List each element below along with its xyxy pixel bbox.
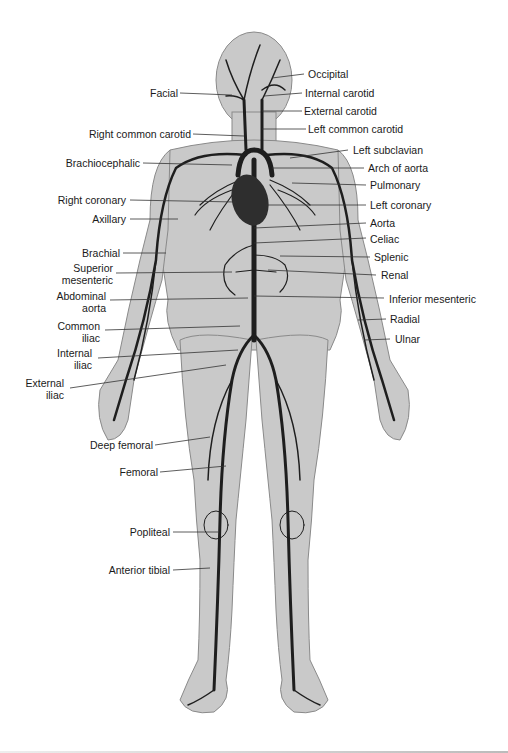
- label-brachiocephalic: Brachiocephalic: [66, 157, 140, 169]
- label-renal: Renal: [381, 269, 408, 281]
- label-ulnar: Ulnar: [395, 333, 420, 345]
- label-arch-of-aorta: Arch of aorta: [368, 162, 428, 174]
- label-celiac: Celiac: [370, 233, 399, 245]
- label-pulmonary: Pulmonary: [370, 179, 420, 191]
- label-left-common-carotid: Left common carotid: [308, 123, 403, 135]
- label-facial: Facial: [150, 87, 178, 99]
- label-internal-carotid: Internal carotid: [305, 87, 374, 99]
- label-brachial: Brachial: [82, 247, 120, 259]
- label-aorta: Aorta: [370, 217, 395, 229]
- label-external-iliac: External iliac: [16, 377, 64, 401]
- label-left-coronary: Left coronary: [370, 199, 431, 211]
- label-axillary: Axillary: [92, 213, 126, 225]
- label-left-subclavian: Left subclavian: [353, 144, 423, 156]
- label-common-iliac: Common iliac: [52, 320, 100, 344]
- circulatory-system-figure: [0, 0, 508, 753]
- label-superior-mesenteric: Superior mesenteric: [33, 262, 113, 286]
- label-splenic: Splenic: [374, 251, 408, 263]
- label-right-common-carotid: Right common carotid: [89, 128, 191, 140]
- label-internal-iliac: Internal iliac: [44, 347, 92, 371]
- label-popliteal: Popliteal: [130, 526, 170, 538]
- label-radial: Radial: [390, 313, 420, 325]
- label-occipital: Occipital: [308, 68, 348, 80]
- label-anterior-tibial: Anterior tibial: [109, 564, 170, 576]
- label-external-carotid: External carotid: [304, 105, 377, 117]
- label-abdominal-aorta: Abdominal aorta: [46, 290, 106, 314]
- label-deep-femoral: Deep femoral: [90, 439, 153, 451]
- label-right-coronary: Right coronary: [58, 194, 126, 206]
- label-femoral: Femoral: [119, 466, 158, 478]
- label-inferior-mesenteric: Inferior mesenteric: [389, 293, 476, 305]
